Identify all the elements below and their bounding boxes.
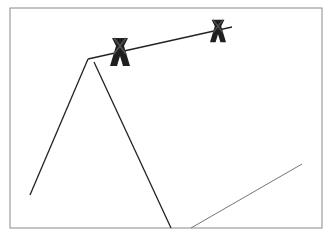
roof-diagram bbox=[0, 0, 332, 240]
frame-border bbox=[10, 8, 322, 228]
